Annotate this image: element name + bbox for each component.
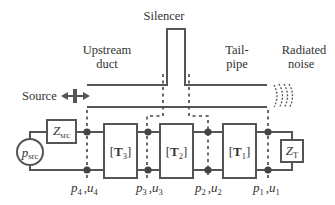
bracket-close: ] (246, 144, 250, 159)
node-dot-2-top (204, 128, 211, 135)
node-label-3: p3,u3 (135, 180, 163, 197)
source-pressure: psrc (17, 139, 43, 165)
radiated-noise-label-line1: Radiated (282, 43, 327, 57)
transfer-matrix-t2: [T2] (160, 124, 193, 178)
tailpipe-label-line2: pipe (226, 57, 248, 71)
matrix-symbol: T (233, 144, 242, 159)
exhaust-system-diagram: psrc Zsrc [T3] [T2] [T1] ZT (0, 0, 335, 205)
tailpipe-label-line1: Tail- (225, 43, 248, 57)
node-dot-2-bottom (204, 166, 211, 173)
source-impedance-sub: src (60, 130, 70, 140)
transfer-matrix-t3: [T3] (104, 124, 137, 178)
node-dot-3-top (144, 128, 151, 135)
node-label-2: p2,u2 (194, 180, 222, 197)
node-dot-4-top (83, 128, 90, 135)
bracket-close: ] (127, 144, 131, 159)
source-impedance: Zsrc (47, 120, 76, 143)
termination-impedance: ZT (281, 140, 303, 162)
node-label-4: p4,u4 (70, 180, 99, 197)
termination-sub: T (293, 150, 299, 160)
matrix-symbol: T (170, 144, 179, 159)
node-dot-1-top (264, 128, 271, 135)
upstream-duct-label-line1: Upstream (83, 43, 132, 57)
node-dot-1-bottom (264, 166, 271, 173)
source-piston-icon (61, 89, 90, 103)
bracket-close: ] (183, 144, 187, 159)
node-label-1: p1,u1 (252, 180, 280, 197)
matrix-symbol: T (114, 144, 123, 159)
radiated-noise-label-line2: noise (288, 57, 315, 71)
silencer-label: Silencer (144, 9, 186, 23)
node-dot-4-bottom (83, 166, 90, 173)
svg-text:[T2]: [T2] (166, 144, 188, 161)
source-label: Source (22, 89, 57, 103)
upstream-duct-label-line2: duct (96, 57, 118, 71)
source-pressure-sub: src (28, 151, 38, 161)
svg-text:[T1]: [T1] (229, 144, 251, 161)
radiated-noise-waves-icon (274, 84, 293, 108)
svg-text:[T3]: [T3] (110, 144, 132, 161)
node-dot-3-bottom (144, 166, 151, 173)
transfer-matrix-t1: [T1] (223, 124, 256, 178)
